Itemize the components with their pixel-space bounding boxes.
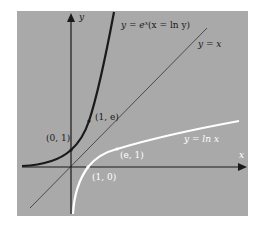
log-curve-label: y = ln x xyxy=(183,134,219,144)
chart-figure: y x y = ex(x = ln y) y = x y = ln x (0, … xyxy=(0,0,263,227)
y-axis-label: y xyxy=(78,12,85,22)
identity-line-label: y = x xyxy=(197,39,221,49)
point-1-e-label: (1, e) xyxy=(95,112,119,122)
point-0-1 xyxy=(69,148,72,151)
point-1-0-label: (1, 0) xyxy=(92,172,116,182)
exp-curve-label: y = ex(x = ln y) xyxy=(120,19,190,30)
point-1-e xyxy=(87,119,90,122)
x-axis-label: x xyxy=(239,150,244,160)
point-e-1-label: (e, 1) xyxy=(120,150,144,160)
point-1-0 xyxy=(86,165,89,168)
point-e-1 xyxy=(115,147,118,150)
point-0-1-label: (0, 1) xyxy=(46,133,70,143)
